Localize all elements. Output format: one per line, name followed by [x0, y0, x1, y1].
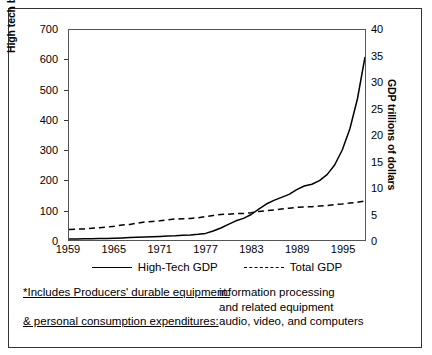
footnote-definition: and related equipment	[219, 300, 333, 315]
right-tick-label: 20	[371, 129, 401, 141]
solid-line-icon	[92, 267, 132, 268]
legend-label: High-Tech GDP	[138, 261, 218, 273]
x-tick-label: 1995	[323, 243, 363, 255]
x-tick-label: 1965	[94, 243, 134, 255]
dashed-line-icon	[244, 267, 284, 268]
footnote-row: and related equipment	[23, 300, 411, 315]
right-tick-label: 5	[371, 209, 401, 221]
left-tick-label: 500	[22, 84, 58, 96]
chart-figure: High tech billions of dollars GDP trilli…	[8, 8, 422, 348]
x-tick-label: 1989	[277, 243, 317, 255]
footnote-definition: information processing	[219, 285, 335, 300]
right-tick-label: 25	[371, 103, 401, 115]
legend-entry: High-Tech GDP	[92, 261, 218, 273]
left-tick-label: 300	[22, 144, 58, 156]
x-tick-label: 1971	[140, 243, 180, 255]
chart-legend: High-Tech GDPTotal GDP	[68, 261, 366, 273]
series-high-tech-gdp	[69, 57, 365, 239]
left-axis-title: High tech billions of dollars	[5, 0, 17, 53]
right-tick-label: 35	[371, 50, 401, 62]
right-tick-label: 40	[371, 23, 401, 35]
x-tick-label: 1977	[186, 243, 226, 255]
right-tick-label: 30	[371, 76, 401, 88]
left-tick-label: 400	[22, 114, 58, 126]
legend-label: Total GDP	[290, 261, 342, 273]
footnote-row: & personal consumption expenditures:audi…	[23, 314, 411, 329]
left-tick-label: 200	[22, 174, 58, 186]
x-tick-label: 1959	[48, 243, 88, 255]
footnote-block: *Includes Producers' durable equipment:i…	[23, 285, 411, 329]
right-tick-label: 15	[371, 156, 401, 168]
footnote-term: & personal consumption expenditures:	[23, 314, 219, 329]
legend-entry: Total GDP	[244, 261, 342, 273]
right-tick-label: 10	[371, 182, 401, 194]
left-tick-label: 600	[22, 53, 58, 65]
footnote-row: *Includes Producers' durable equipment:i…	[23, 285, 411, 300]
series-total-gdp	[69, 201, 365, 229]
x-tick-label: 1983	[231, 243, 271, 255]
footnote-term: *Includes Producers' durable equipment:	[23, 285, 219, 300]
footnote-definition: audio, video, and computers	[219, 314, 363, 329]
series-lines	[69, 30, 365, 240]
plot-area	[68, 29, 366, 241]
right-tick-label: 0	[371, 235, 401, 247]
left-tick-label: 700	[22, 23, 58, 35]
left-tick-label: 100	[22, 205, 58, 217]
